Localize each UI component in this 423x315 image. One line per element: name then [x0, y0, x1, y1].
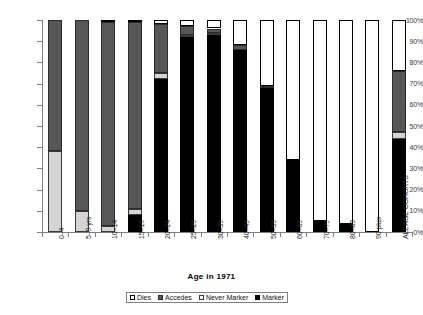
bar-segment-dies: [313, 20, 327, 221]
bar-segment-accedes: [180, 26, 194, 34]
swatch-accedes-icon: [158, 295, 163, 300]
x-axis-tick: [148, 232, 149, 237]
x-axis-tick: [253, 232, 254, 237]
stacked-bar-chart: 0%10%20%30%40%50%60%70%80%90%100% 0–45–9…: [0, 0, 423, 315]
bar: [128, 20, 142, 232]
bar: [101, 20, 115, 232]
bar-segment-dies: [101, 20, 115, 22]
bar-segment-dies: [233, 20, 247, 45]
x-axis-tick-label: 60–69: [296, 220, 303, 239]
x-axis-title: Age in 1971: [0, 272, 423, 282]
legend-item: Marker: [255, 294, 284, 301]
bar-segment-never-marker: [154, 73, 168, 79]
x-axis-tick-label: 90 plus: [375, 217, 382, 239]
swatch-never-marker-icon: [199, 295, 204, 300]
x-axis-tick: [386, 232, 387, 237]
x-axis-tick: [280, 232, 281, 237]
bar-segment-dies: [154, 20, 168, 24]
x-axis-tick-label: 30–39: [217, 220, 224, 239]
bar-segment-accedes: [260, 86, 274, 88]
bar-segment-accedes: [207, 29, 221, 33]
bar-segment-never-marker: [48, 151, 62, 232]
x-axis-tick-label: 70–79: [323, 220, 330, 239]
legend-item-label: Marker: [262, 294, 284, 301]
x-axis-tick-label: 50–59: [270, 220, 277, 239]
bar: [339, 20, 353, 232]
x-axis-tick: [174, 232, 175, 237]
x-axis-tick-label: 15–19: [138, 220, 145, 239]
bar-segment-accedes: [101, 22, 115, 226]
x-axis-tick-label: 5–9 yrs: [85, 217, 92, 239]
bar-segment-never-marker: [207, 33, 221, 35]
bar: [48, 20, 62, 232]
bar: [207, 20, 221, 232]
bar-segment-accedes: [154, 24, 168, 73]
x-axis-tick: [201, 232, 202, 237]
bar-segment-marker: [180, 37, 194, 232]
plot-area: [42, 20, 412, 232]
bar: [75, 20, 89, 232]
legend-item-label: Never Marker: [206, 294, 248, 301]
legend-item-label: Dies: [137, 294, 151, 301]
x-axis-tick: [306, 232, 307, 237]
x-axis-tick: [95, 232, 96, 237]
bar-segment-never-marker: [180, 35, 194, 37]
swatch-dies-icon: [130, 295, 135, 300]
x-axis-tick: [68, 232, 69, 237]
legend-item: Dies: [130, 294, 151, 301]
bar-segment-marker: [260, 88, 274, 232]
bar-segment-dies: [128, 20, 142, 22]
x-axis-tick-label: 80–89: [349, 220, 356, 239]
bar-segment-marker: [233, 50, 247, 232]
bar: [286, 20, 300, 232]
bar-segment-dies: [339, 20, 353, 224]
bar-segment-dies: [365, 20, 379, 232]
x-axis-tick-label: 40–49: [243, 220, 250, 239]
x-axis-tick: [227, 232, 228, 237]
bar-segment-marker: [154, 79, 168, 232]
bar-segment-accedes: [48, 20, 62, 151]
x-axis-tick-label: 25–29: [190, 220, 197, 239]
x-axis-tick: [42, 232, 43, 237]
bar-segment-accedes: [75, 20, 89, 211]
bar-segment-marker: [207, 35, 221, 232]
bar: [180, 20, 194, 232]
x-axis-tick: [359, 232, 360, 237]
x-axis-tick-label: 0–4: [58, 228, 65, 239]
bar: [365, 20, 379, 232]
bar-segment-dies: [180, 20, 194, 26]
bar: [313, 20, 327, 232]
bar-segment-dies: [286, 20, 300, 160]
swatch-marker-icon: [255, 295, 260, 300]
bar-segment-accedes: [233, 45, 247, 49]
x-axis-tick: [121, 232, 122, 237]
legend-item: Never Marker: [199, 294, 248, 301]
bar-segment-accedes: [128, 22, 142, 209]
x-axis-tick-label: 10–14: [111, 220, 118, 239]
bar: [233, 20, 247, 232]
bar-segment-dies: [207, 20, 221, 28]
x-axis-tick: [412, 232, 413, 237]
x-axis-tick-label: ALL AGE COHORTS: [402, 175, 409, 239]
x-axis-tick-label: 20–24: [164, 220, 171, 239]
bar-segment-dies: [260, 20, 274, 86]
chart-legend: DiesAccedesNever MarkerMarker: [126, 292, 288, 303]
legend-item: Accedes: [158, 294, 192, 301]
legend-item-label: Accedes: [165, 294, 192, 301]
bar: [154, 20, 168, 232]
bar-segment-accedes: [392, 71, 406, 132]
bar-segment-dies: [392, 20, 406, 71]
bar-segment-never-marker: [128, 209, 142, 215]
bar-segment-never-marker: [392, 132, 406, 138]
x-axis-tick: [333, 232, 334, 237]
bar: [260, 20, 274, 232]
